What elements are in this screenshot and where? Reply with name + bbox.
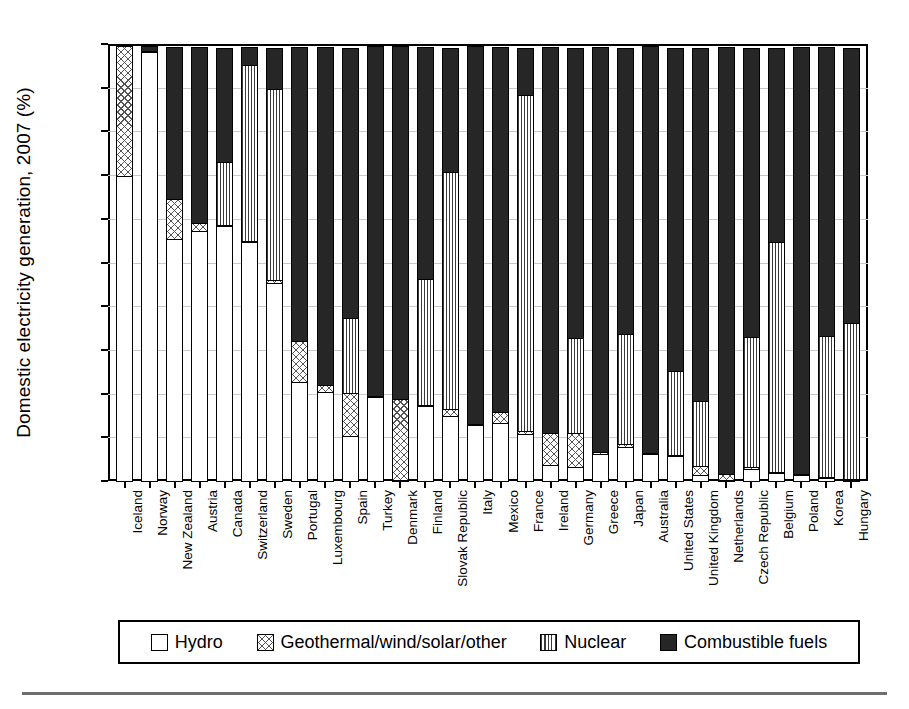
legend-label: Combustible fuels <box>684 632 827 653</box>
bar-column <box>688 44 713 481</box>
stacked-bar[interactable] <box>367 44 384 481</box>
stacked-bar[interactable] <box>517 44 534 481</box>
bar-segment-fuels <box>692 48 709 402</box>
bar-segment-fuels <box>216 48 233 163</box>
stacked-bar[interactable] <box>442 44 459 481</box>
bar-segment-nuclear <box>241 65 258 242</box>
x-axis-label-canada: Canada <box>231 490 245 620</box>
bar-segment-hydro <box>116 176 133 482</box>
legend-item-fuels[interactable]: Combustible fuels <box>660 632 827 653</box>
bar-segment-hydro <box>467 425 484 482</box>
stacked-bar[interactable] <box>642 44 659 481</box>
bar-segment-nuclear <box>442 172 459 410</box>
stacked-bar[interactable] <box>216 44 233 481</box>
x-axis-tick-mark <box>149 481 151 488</box>
x-axis-tick-mark <box>299 481 301 488</box>
x-axis-label-united-kingdom: United Kingdom <box>707 490 721 620</box>
legend-label: Nuclear <box>564 632 626 653</box>
legend-item-nuclear[interactable]: Nuclear <box>540 632 626 653</box>
x-axis-label-czech-republic: Czech Republic <box>757 490 771 620</box>
stacked-bar[interactable] <box>291 44 308 481</box>
stacked-bar[interactable] <box>768 44 785 481</box>
stacked-bar[interactable] <box>166 44 183 481</box>
bar-segment-fuels <box>743 48 760 338</box>
stacked-bar[interactable] <box>692 44 709 481</box>
stacked-bar[interactable] <box>317 44 334 481</box>
bar-column <box>613 44 638 481</box>
stacked-bar[interactable] <box>743 44 760 481</box>
x-axis-tick-mark <box>399 481 401 488</box>
stacked-bar[interactable] <box>818 44 835 481</box>
stacked-bar[interactable] <box>718 44 735 481</box>
stacked-bar[interactable] <box>843 44 860 481</box>
stacked-bar[interactable] <box>266 44 283 481</box>
bar-segment-hydro <box>417 406 434 482</box>
bar-column <box>663 44 688 481</box>
bar-column <box>388 44 413 481</box>
y-axis-tick-mark <box>101 480 108 482</box>
x-axis-tick-mark <box>725 481 727 488</box>
x-axis-tick-mark <box>800 481 802 488</box>
x-axis-label-germany: Germany <box>582 490 596 620</box>
x-axis-tick-mark <box>124 481 126 488</box>
x-axis-label-sweden: Sweden <box>281 490 295 620</box>
bar-segment-geo <box>342 393 359 437</box>
x-axis-label-australia: Australia <box>657 490 671 620</box>
stacked-bar[interactable] <box>417 44 434 481</box>
bar-column <box>789 44 814 481</box>
bar-column <box>262 44 287 481</box>
x-axis-label-austria: Austria <box>206 490 220 620</box>
x-axis-tick-mark <box>700 481 702 488</box>
stacked-bar[interactable] <box>342 44 359 481</box>
x-axis-label-finland: Finland <box>431 490 445 620</box>
x-axis-tick-mark <box>600 481 602 488</box>
stacked-bar[interactable] <box>141 44 158 481</box>
legend-item-geo[interactable]: Geothermal/wind/solar/other <box>257 632 507 653</box>
bar-segment-hydro <box>642 454 659 482</box>
stacked-bar[interactable] <box>116 44 133 481</box>
stacked-bar[interactable] <box>592 44 609 481</box>
bar-column <box>237 44 262 481</box>
bar-segment-hydro <box>266 283 283 482</box>
bar-segment-geo <box>166 199 183 241</box>
stacked-bar[interactable] <box>392 44 409 481</box>
stacked-bar[interactable] <box>793 44 810 481</box>
footer-divider <box>22 692 887 695</box>
bar-segment-fuels <box>392 46 409 400</box>
bar-segment-nuclear <box>743 337 760 468</box>
bar-segment-nuclear <box>266 89 283 281</box>
x-axis-label-japan: Japan <box>632 490 646 620</box>
x-axis-label-new-zealand: New Zealand <box>181 490 195 620</box>
x-axis-tick-mark <box>249 481 251 488</box>
y-axis-tick-mark <box>101 262 108 264</box>
legend-item-hydro[interactable]: Hydro <box>151 632 223 653</box>
bar-segment-hydro <box>241 242 258 482</box>
stacked-bar[interactable] <box>542 44 559 481</box>
x-axis-label-portugal: Portugal <box>306 490 320 620</box>
stacked-bar[interactable] <box>567 44 584 481</box>
bar-segment-hydro <box>367 397 384 482</box>
bar-segment-fuels <box>342 48 359 319</box>
bar-column <box>313 44 338 481</box>
stacked-bar[interactable] <box>617 44 634 481</box>
bar-column <box>438 44 463 481</box>
x-axis-label-italy: Italy <box>481 490 495 620</box>
bar-segment-fuels <box>818 47 835 336</box>
stacked-bar[interactable] <box>241 44 258 481</box>
x-axis-label-france: France <box>532 490 546 620</box>
stacked-bar[interactable] <box>191 44 208 481</box>
stacked-bar[interactable] <box>492 44 509 481</box>
chart-legend: HydroGeothermal/wind/solar/otherNuclearC… <box>118 620 860 664</box>
x-axis-label-ireland: Ireland <box>557 490 571 620</box>
x-axis-label-slovak-republic: Slovak Republic <box>456 490 470 620</box>
stacked-bar[interactable] <box>467 44 484 481</box>
chart-page: Domestic electricity generation, 2007 (%… <box>0 0 909 709</box>
bar-column <box>287 44 312 481</box>
bar-column <box>638 44 663 481</box>
bar-segment-fuels <box>793 47 810 476</box>
stacked-bar[interactable] <box>667 44 684 481</box>
bar-segment-nuclear <box>667 371 684 456</box>
bar-column <box>764 44 789 481</box>
bar-column <box>814 44 839 481</box>
bar-segment-fuels <box>592 47 609 453</box>
